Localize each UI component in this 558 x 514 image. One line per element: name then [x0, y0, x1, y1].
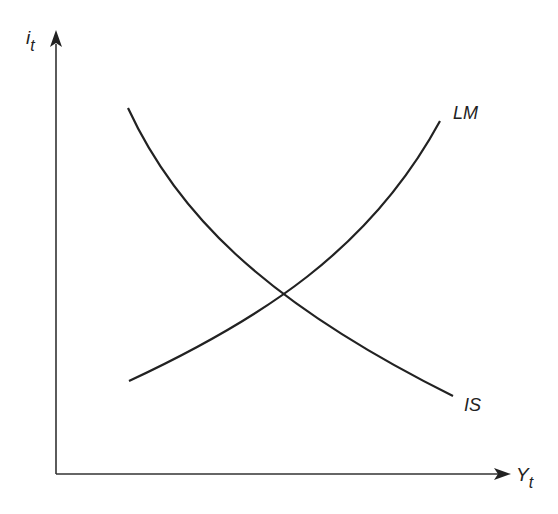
is-curve [128, 108, 453, 396]
y-axis-label: it [26, 27, 35, 54]
lm-curve [129, 121, 440, 381]
islm-diagram: it Yt LM IS [0, 0, 558, 514]
lm-label: LM [453, 103, 478, 123]
x-axis-label: Yt [516, 464, 534, 491]
is-label: IS [464, 395, 481, 415]
